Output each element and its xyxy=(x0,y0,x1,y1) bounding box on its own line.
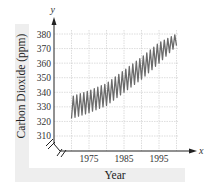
y-axis-arrow-icon xyxy=(52,17,57,25)
y-tick-label: 370 xyxy=(37,44,52,54)
y-tick-labels: 380 370 360 350 340 330 320 310 xyxy=(37,30,52,142)
x-tick-labels: 1975 1985 1995 xyxy=(80,154,169,164)
y-variable-label: y xyxy=(50,4,56,15)
xlabel-band xyxy=(15,168,185,182)
y-tick-label: 380 xyxy=(37,30,52,40)
x-tick-label: 1995 xyxy=(150,154,169,164)
x-axis-title: Year xyxy=(104,169,125,181)
y-tick-label: 310 xyxy=(37,131,52,141)
x-tick-label: 1985 xyxy=(115,154,134,164)
axis-corner xyxy=(54,144,60,151)
x-tick-label: 1975 xyxy=(80,154,99,164)
axis-break-marks-icon xyxy=(46,139,66,157)
y-tick-label: 350 xyxy=(37,73,52,83)
y-tick-label: 330 xyxy=(37,102,52,112)
y-tick-label: 360 xyxy=(37,59,52,69)
y-tick-label: 320 xyxy=(37,117,52,127)
co2-chart: y x 380 370 360 350 340 330 320 310 1975… xyxy=(0,0,210,189)
y-axis-title: Carbon Dioxide (ppm) xyxy=(15,33,28,138)
y-tick-label: 340 xyxy=(37,88,52,98)
x-variable-label: x xyxy=(198,145,204,156)
x-axis-arrow-icon xyxy=(189,149,197,154)
